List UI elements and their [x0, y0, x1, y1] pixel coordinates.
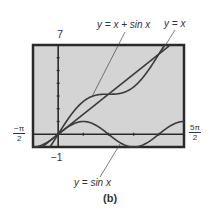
curve-label-x-plus-sinx: y = x + sin x	[97, 19, 150, 30]
xmax-label: 5π 2	[189, 123, 201, 142]
ymin-label: −1	[51, 152, 62, 163]
curve-label-sinx: y = sin x	[74, 177, 111, 188]
xmin-label: −π 2	[13, 124, 25, 143]
figure-caption: (b)	[103, 192, 117, 204]
graph-figure: 7 −1 −π 2 5π 2 y = x + sin x y = x y = s…	[0, 0, 210, 220]
ymax-label: 7	[57, 28, 63, 40]
curve-label-x: y = x	[164, 18, 185, 29]
